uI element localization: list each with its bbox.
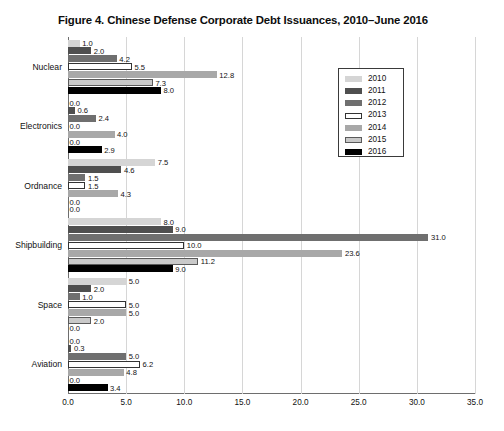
- x-tick-label: 5.0: [120, 398, 131, 407]
- legend-label: 2010: [368, 75, 386, 83]
- bar-rect: [68, 71, 217, 78]
- bar-nuclear-2012: 4.2: [68, 55, 475, 62]
- bar-value-label: 6.2: [140, 360, 153, 369]
- bar-nuclear-2013: 5.5: [68, 63, 475, 70]
- bar-ordnance-2016: 0.0: [68, 206, 475, 213]
- bar-value-label: 0.0: [68, 324, 80, 333]
- bar-shipbuilding-2016: 9.0: [68, 265, 475, 272]
- category-label-ordnance: Ordnance: [24, 181, 62, 191]
- bar-electronics-2010: 0.0: [68, 99, 475, 106]
- legend-swatch-icon: [345, 137, 362, 143]
- legend-swatch-icon: [345, 113, 362, 119]
- x-tick-label: 25.0: [351, 398, 367, 407]
- bar-value-label: 2.9: [102, 145, 115, 154]
- chart-title: Figure 4. Chinese Defense Corporate Debt…: [58, 14, 478, 26]
- bar-nuclear-2016: 8.0: [68, 87, 475, 94]
- bar-shipbuilding-2014: 23.6: [68, 250, 475, 257]
- bar-rect: [68, 63, 132, 70]
- bar-value-label: 10.0: [184, 241, 201, 250]
- bar-aviation-2012: 5.0: [68, 353, 475, 360]
- legend-item-2015[interactable]: 2015: [345, 135, 386, 145]
- legend-swatch-icon: [345, 76, 362, 82]
- bar-space-2011: 2.0: [68, 285, 475, 292]
- category-label-aviation: Aviation: [32, 359, 62, 369]
- legend-label: 2011: [368, 87, 386, 95]
- bar-rect: [68, 174, 85, 181]
- legend-swatch-icon: [345, 88, 362, 94]
- bar-ordnance-2015: 0.0: [68, 198, 475, 205]
- legend-label: 2014: [368, 124, 386, 132]
- bar-value-label: 9.0: [173, 264, 186, 273]
- bar-electronics-2012: 2.4: [68, 115, 475, 122]
- bar-ordnance-2011: 4.6: [68, 166, 475, 173]
- bar-rect: [68, 301, 126, 308]
- category-label-electronics: Electronics: [20, 121, 62, 131]
- bar-nuclear-2010: 1.0: [68, 40, 475, 47]
- bar-electronics-2013: 0.0: [68, 123, 475, 130]
- x-tick-label: 30.0: [409, 398, 425, 407]
- bar-rect: [68, 242, 184, 249]
- legend-item-2010[interactable]: 2010: [345, 74, 386, 84]
- legend-item-2013[interactable]: 2013: [345, 111, 386, 121]
- bar-aviation-2014: 4.8: [68, 369, 475, 376]
- x-tick-label: 20.0: [293, 398, 309, 407]
- category-label-nuclear: Nuclear: [32, 62, 62, 72]
- bar-shipbuilding-2011: 9.0: [68, 226, 475, 233]
- bar-electronics-2015: 0.0: [68, 139, 475, 146]
- bar-rect: [68, 226, 173, 233]
- legend-item-2016[interactable]: 2016: [345, 147, 386, 157]
- bar-space-2014: 5.0: [68, 309, 475, 316]
- bar-nuclear-2014: 12.8: [68, 71, 475, 78]
- x-tick-label: 35.0: [467, 398, 483, 407]
- legend-label: 2016: [368, 148, 386, 156]
- legend-item-2014[interactable]: 2014: [345, 123, 386, 133]
- bar-rect: [68, 234, 428, 241]
- category-label-space: Space: [38, 300, 62, 310]
- bar-shipbuilding-2012: 31.0: [68, 234, 475, 241]
- bar-value-label: 2.0: [91, 46, 104, 55]
- legend-swatch-icon: [345, 125, 362, 131]
- bar-electronics-2011: 0.6: [68, 107, 475, 114]
- bar-value-label: 4.0: [115, 130, 128, 139]
- x-tick-label: 0.0: [62, 398, 73, 407]
- bar-value-label: 5.5: [132, 62, 145, 71]
- category-label-shipbuilding: Shipbuilding: [15, 240, 62, 250]
- bar-value-label: 1.0: [80, 292, 93, 301]
- bar-aviation-2016: 3.4: [68, 384, 475, 391]
- bar-value-label: 3.4: [108, 383, 121, 392]
- bar-rect: [68, 265, 173, 272]
- bar-shipbuilding-2015: 11.2: [68, 258, 475, 265]
- bar-rect: [68, 47, 91, 54]
- bar-value-label: 0.0: [68, 138, 80, 147]
- bar-aviation-2010: 0.0: [68, 337, 475, 344]
- bar-value-label: 4.2: [117, 54, 130, 63]
- x-tick-label: 15.0: [234, 398, 250, 407]
- bar-rect: [68, 146, 102, 153]
- bar-value-label: 0.3: [71, 344, 84, 353]
- legend-label: 2012: [368, 99, 386, 107]
- bar-nuclear-2015: 7.3: [68, 79, 475, 86]
- bar-value-label: 7.5: [155, 158, 168, 167]
- bar-space-2016: 0.0: [68, 325, 475, 332]
- bar-value-label: 0.6: [75, 106, 88, 115]
- bar-rect: [68, 293, 80, 300]
- bar-value-label: 0.0: [68, 122, 80, 131]
- bar-value-label: 31.0: [428, 233, 445, 242]
- legend-swatch-icon: [345, 149, 362, 155]
- bar-ordnance-2012: 1.5: [68, 174, 475, 181]
- bar-value-label: 5.0: [126, 308, 139, 317]
- bar-rect: [68, 55, 117, 62]
- bar-value-label: 12.8: [217, 70, 234, 79]
- legend-item-2011[interactable]: 2011: [345, 86, 386, 96]
- x-tick-label: 10.0: [176, 398, 192, 407]
- figure-chinese-defense-debt-issuances: Figure 4. Chinese Defense Corporate Debt…: [0, 0, 504, 431]
- legend-item-2012[interactable]: 2012: [345, 98, 386, 108]
- bar-space-2015: 2.0: [68, 317, 475, 324]
- bar-rect: [68, 159, 155, 166]
- legend-swatch-icon: [345, 100, 362, 106]
- bar-rect: [68, 182, 85, 189]
- bar-rect: [68, 218, 161, 225]
- bar-electronics-2016: 2.9: [68, 146, 475, 153]
- bar-value-label: 5.0: [126, 277, 139, 286]
- bar-shipbuilding-2013: 10.0: [68, 242, 475, 249]
